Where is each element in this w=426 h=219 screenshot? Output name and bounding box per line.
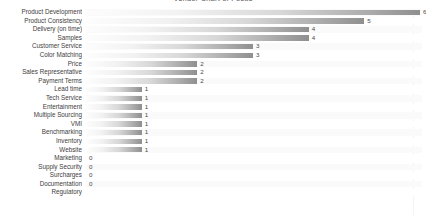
bar xyxy=(86,18,364,23)
chart-row: Website1 xyxy=(0,146,426,155)
chart-row: Multiple Sourcing1 xyxy=(0,111,426,120)
category-label: Delivery (on time) xyxy=(0,25,82,34)
chart-row: Customer Service3 xyxy=(0,42,426,51)
bar-value-label: 1 xyxy=(145,111,148,120)
bar-track xyxy=(86,70,422,75)
bar-track xyxy=(86,139,422,144)
chart-row: Documentation0 xyxy=(0,180,426,189)
chart-row: Inventory1 xyxy=(0,137,426,146)
bar-track xyxy=(86,44,422,49)
bar-value-label: 3 xyxy=(256,42,259,51)
bar-track xyxy=(86,35,422,40)
bar xyxy=(86,147,142,152)
bar xyxy=(86,139,142,144)
category-label: Samples xyxy=(0,34,82,43)
bar xyxy=(86,113,142,118)
bar-value-label: 5 xyxy=(367,17,370,26)
bar-track xyxy=(86,130,422,135)
category-label: Price xyxy=(0,60,82,69)
bar-value-label: 3 xyxy=(256,51,259,60)
bar-value-label: 1 xyxy=(145,146,148,155)
category-label: Inventory xyxy=(0,137,82,146)
bar xyxy=(86,35,309,40)
chart-row: Payment Terms2 xyxy=(0,77,426,86)
bar-track xyxy=(86,104,422,109)
bar-track xyxy=(86,190,422,195)
category-label: Color Matching xyxy=(0,51,82,60)
bar-track xyxy=(86,156,422,161)
bar-value-label: 0 xyxy=(89,180,92,189)
bar-track xyxy=(86,61,422,66)
chart-title: Vendor Chart of Focus xyxy=(0,0,426,4)
bar-track xyxy=(86,87,422,92)
bar-track xyxy=(86,164,422,169)
bar-value-label: 1 xyxy=(145,128,148,137)
category-label: Payment Terms xyxy=(0,77,82,86)
chart-row: Color Matching3 xyxy=(0,51,426,60)
chart-row: Lead time1 xyxy=(0,85,426,94)
bar-value-label: 1 xyxy=(145,137,148,146)
bar-chart: Vendor Chart of Focus Product Developmen… xyxy=(0,0,426,219)
chart-row: Product Consistency5 xyxy=(0,17,426,26)
chart-row: Regulatory xyxy=(0,188,426,197)
category-label: Multiple Sourcing xyxy=(0,111,82,120)
chart-row: Samples4 xyxy=(0,34,426,43)
bar-track xyxy=(86,27,422,32)
bar-value-label: 0 xyxy=(89,154,92,163)
category-label: Lead time xyxy=(0,85,82,94)
chart-row: Tech Service1 xyxy=(0,94,426,103)
chart-row: Supply Security0 xyxy=(0,163,426,172)
bar-track xyxy=(86,113,422,118)
chart-row: Marketing0 xyxy=(0,154,426,163)
bar-track xyxy=(86,96,422,101)
bar xyxy=(86,27,309,32)
category-label: Website xyxy=(0,146,82,155)
bar-track xyxy=(86,121,422,126)
category-label: Documentation xyxy=(0,180,82,189)
bar-track xyxy=(86,147,422,152)
bar xyxy=(86,78,197,83)
bar-value-label: 4 xyxy=(312,34,315,43)
category-label: Surcharges xyxy=(0,171,82,180)
bar-track xyxy=(86,18,422,23)
category-label: Product Development xyxy=(0,8,82,17)
category-label: Regulatory xyxy=(0,188,82,197)
chart-row: VMI1 xyxy=(0,120,426,129)
category-label: VMI xyxy=(0,120,82,129)
category-label: Customer Service xyxy=(0,42,82,51)
bar-value-label: 0 xyxy=(89,163,92,172)
bar xyxy=(86,104,142,109)
category-label: Product Consistency xyxy=(0,17,82,26)
chart-row: Product Development6 xyxy=(0,8,426,17)
chart-row: Surcharges0 xyxy=(0,171,426,180)
plot-area: Product Development6Product Consistency5… xyxy=(0,8,426,219)
bar-value-label: 2 xyxy=(200,68,203,77)
bar-track xyxy=(86,181,422,186)
bar-track xyxy=(86,78,422,83)
bar-value-label: 0 xyxy=(89,171,92,180)
bar xyxy=(86,44,253,49)
bar xyxy=(86,96,142,101)
category-label: Entertainment xyxy=(0,103,82,112)
bar-value-label: 2 xyxy=(200,77,203,86)
chart-row: Benchmarking1 xyxy=(0,128,426,137)
bar xyxy=(86,130,142,135)
category-label: Tech Service xyxy=(0,94,82,103)
bar-track xyxy=(86,53,422,58)
chart-row: Delivery (on time)4 xyxy=(0,25,426,34)
bar-track xyxy=(86,173,422,178)
bar-value-label: 2 xyxy=(200,60,203,69)
category-label: Benchmarking xyxy=(0,128,82,137)
bar-value-label: 1 xyxy=(145,120,148,129)
category-label: Sales Representative xyxy=(0,68,82,77)
bar xyxy=(86,121,142,126)
bar-value-label: 1 xyxy=(145,103,148,112)
chart-row: Price2 xyxy=(0,60,426,69)
bar xyxy=(86,87,142,92)
bar-track xyxy=(86,10,422,15)
category-label: Marketing xyxy=(0,154,82,163)
bar xyxy=(86,70,197,75)
bar xyxy=(86,61,197,66)
category-label: Supply Security xyxy=(0,163,82,172)
bar xyxy=(86,10,420,15)
